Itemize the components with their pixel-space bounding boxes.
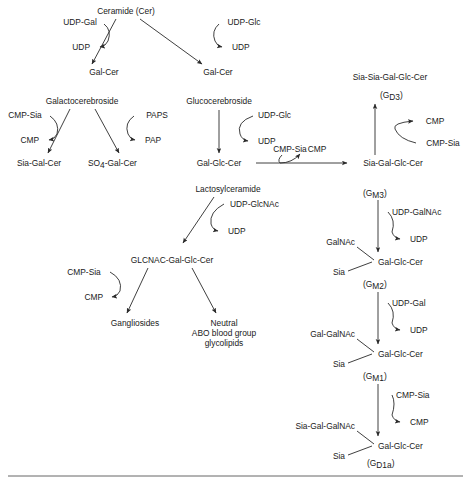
node-pap: PAP	[145, 135, 162, 145]
node-udp-gm3: UDP	[410, 234, 428, 244]
node-gal-galnac-gm1: Gal-GalNAc	[310, 329, 355, 339]
node-cmp-gd3: CMP	[426, 116, 445, 126]
label-gd3: (GD3)	[380, 90, 403, 102]
edge-galgalnac-link-gm1	[357, 339, 374, 352]
node-paps: PAPS	[146, 110, 168, 120]
node-cmp-sia-horiz: CMP-Sia	[273, 144, 307, 154]
node-cmp-sia-gang: CMP-Sia	[67, 267, 101, 277]
node-udp-gal-gm2: UDP-Gal	[392, 298, 426, 308]
node-sia-gm1: Sia	[333, 359, 345, 369]
edge-udp-out-gm2	[392, 323, 400, 330]
node-sia-gal-glc-cer: Sia-Gal-Glc-Cer	[363, 158, 423, 168]
node-galnac-gm2: GalNAc	[326, 237, 355, 247]
node-sia-gal-cer: Sia-Gal-Cer	[17, 158, 61, 168]
edge-udp-out-lacto	[211, 224, 218, 231]
edge-cmpsia-in-left	[50, 116, 58, 134]
node-cmp-sia-gd3: CMP-Sia	[426, 138, 460, 148]
node-udp-galnac-gm3: UDP-GalNAc	[392, 207, 441, 217]
node-neutral-line2: ABO blood group	[192, 328, 257, 338]
edge-sia-link-gd1a	[348, 446, 372, 455]
label-gm2: (GM2)	[363, 279, 387, 291]
pathway-diagram: Ceramide (Cer) UDP-Gal UDP Gal-Cer UDP-G…	[0, 0, 471, 484]
edge-cmp-out-gd1a	[392, 415, 400, 422]
node-lactosylceramide: Lactosylceramide	[195, 184, 261, 194]
edge-paps-in	[127, 116, 134, 134]
edge-cmp-out-gd3	[395, 121, 413, 129]
edge-udp-out-mid	[240, 134, 248, 141]
node-cmp-left: CMP	[20, 135, 39, 145]
node-gal-cer-right: Gal-Cer	[203, 67, 233, 77]
edge-glcnac-to-gangliosides	[127, 268, 148, 313]
node-cmp-sia-gd1a: CMP-Sia	[396, 390, 430, 400]
edge-galnac-link-gm2	[357, 247, 374, 260]
edge-lactosylceramide-to-glcnac	[183, 197, 214, 243]
edge-cmpsia-in-horiz	[279, 155, 282, 163]
node-sia-gd1a: Sia	[333, 451, 345, 461]
node-udp-gal-top: UDP-Gal	[63, 17, 97, 27]
node-gangliosides: Gangliosides	[111, 318, 159, 328]
node-ceramide: Ceramide (Cer)	[97, 6, 155, 16]
node-gal-glc-cer-gm1: Gal-Glc-Cer	[378, 349, 423, 359]
node-cmp-horiz: CMP	[308, 144, 327, 154]
edge-ceramide-to-galcer-right	[140, 19, 202, 64]
node-so4-gal-cer: SO4-Gal-Cer	[88, 158, 137, 170]
node-sia-sia-gal-glc-cer: Sia-Sia-Gal-Glc-Cer	[353, 72, 428, 82]
node-sia-gal-galnac-gd1a: Sia-Gal-GalNAc	[295, 421, 355, 431]
label-gd1a: (GD1a)	[367, 458, 395, 470]
edge-sia-link-gm2	[348, 262, 372, 271]
edge-cmpsia-in-gang	[110, 272, 121, 291]
node-udp-glc-mid: UDP-Glc	[258, 110, 291, 120]
node-glucocerebroside: Glucocerebroside	[186, 96, 252, 106]
node-udp-lacto: UDP	[228, 226, 246, 236]
edge-udpglcnac-in	[211, 204, 224, 224]
edge-cmpsia-in-gd1a	[392, 395, 394, 415]
label-gm1: (GM1)	[363, 371, 387, 383]
label-gm3: (GM3)	[363, 188, 387, 200]
node-cmp-gang: CMP	[84, 292, 103, 302]
node-gal-glc-cer-mid: Gal-Glc-Cer	[197, 158, 242, 168]
edge-udpglc-in-right	[214, 24, 219, 41]
edge-siagalgalnac-link-gd1a	[357, 431, 374, 444]
node-udp-glc-top: UDP-Glc	[227, 17, 260, 27]
node-galactocerebroside: Galactocerebroside	[46, 96, 119, 106]
node-udp-right-top: UDP	[232, 42, 250, 52]
node-gal-cer-left: Gal-Cer	[89, 67, 119, 77]
node-udp-glcnac: UDP-GlcNAc	[230, 199, 279, 209]
node-gal-glc-cer-gm2: Gal-Glc-Cer	[378, 257, 423, 267]
edge-cmp-out-horiz	[280, 154, 300, 163]
edge-galactocerebroside-to-so4galcer	[95, 109, 119, 153]
edge-udp-out-right	[215, 41, 222, 47]
edge-udpglc-in-mid	[239, 116, 253, 134]
node-glcnac-gal-glc-cer: GLCNAC-Gal-Glc-Cer	[131, 255, 214, 265]
node-neutral-line1: Neutral	[211, 318, 238, 328]
node-neutral-line3: glycolipids	[205, 338, 244, 348]
node-sia-gm2: Sia	[333, 267, 345, 277]
node-cmp-gd1a: CMP	[410, 417, 429, 427]
node-udp-gm2: UDP	[410, 325, 428, 335]
edge-cmp-out-gang	[112, 291, 120, 297]
edge-pap-out	[128, 134, 135, 140]
node-cmp-sia-left: CMP-Sia	[8, 110, 42, 120]
edge-sia-link-gm1	[348, 354, 372, 363]
edge-galactocerebroside-to-siagalcer	[48, 109, 70, 153]
edge-cmpsia-in-gd3	[395, 129, 416, 143]
node-udp-left-top: UDP	[72, 42, 90, 52]
edge-glcnac-to-neutral	[192, 268, 216, 313]
node-gal-glc-cer-gd1a: Gal-Glc-Cer	[378, 441, 423, 451]
edge-udp-out-gm3	[392, 232, 400, 239]
